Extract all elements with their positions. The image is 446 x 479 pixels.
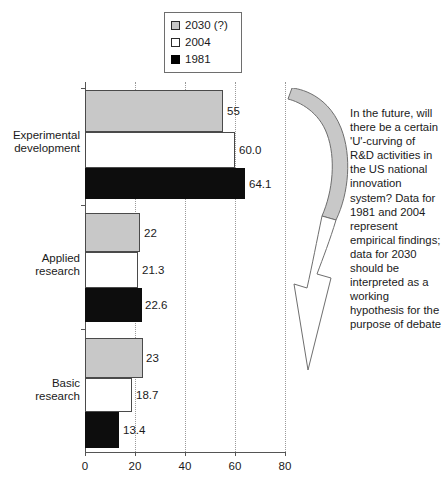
x-tick-label-0: 0 — [65, 460, 105, 472]
category-label-basic-research: Basic research — [2, 377, 80, 403]
bar-value-applied-research-1981: 22.6 — [145, 299, 167, 311]
legend-label-2030: 2030 (?) — [185, 19, 228, 31]
gridline-60 — [235, 82, 236, 452]
y-tick-top — [81, 88, 85, 89]
x-tick-label-40: 40 — [165, 460, 205, 472]
plot-area: 0 20 40 60 80 55 60.0 64.1 22 21.3 22.6 … — [85, 82, 285, 452]
bar-basic-research-1981 — [85, 412, 119, 448]
legend-label-2004: 2004 — [185, 36, 211, 48]
bar-value-basic-research-2030: 23 — [146, 352, 159, 364]
bar-value-applied-research-2030: 22 — [144, 227, 157, 239]
x-tick-60 — [235, 452, 236, 456]
x-tick-label-60: 60 — [215, 460, 255, 472]
bar-value-experimental-development-1981: 64.1 — [249, 178, 271, 190]
category-label-line-1: Experimental — [2, 129, 80, 142]
bar-value-experimental-development-2030: 55 — [227, 105, 240, 117]
bar-value-basic-research-2004: 18.7 — [136, 389, 158, 401]
category-label-line-1: Basic — [2, 377, 80, 390]
bar-applied-research-2004 — [85, 252, 138, 288]
y-tick-group-1 — [81, 205, 85, 206]
x-tick-80 — [285, 452, 286, 456]
bar-value-applied-research-2004: 21.3 — [142, 264, 164, 276]
legend-swatch-2030 — [171, 21, 180, 30]
bar-experimental-development-2004 — [85, 132, 235, 168]
x-tick-20 — [135, 452, 136, 456]
bar-basic-research-2004 — [85, 378, 132, 412]
legend-label-1981: 1981 — [185, 53, 211, 65]
category-label-experimental-development: Experimental development — [2, 129, 80, 155]
x-tick-label-80: 80 — [265, 460, 305, 472]
category-label-line-2: research — [2, 390, 80, 403]
bar-applied-research-1981 — [85, 288, 142, 322]
legend-item-2030: 2030 (?) — [171, 17, 236, 33]
bar-value-basic-research-1981: 13.4 — [123, 424, 145, 436]
bar-experimental-development-1981 — [85, 168, 245, 199]
legend-swatch-1981 — [171, 55, 180, 64]
legend-swatch-2004 — [171, 38, 180, 47]
legend-item-1981: 1981 — [171, 51, 236, 67]
category-label-line-2: development — [2, 142, 80, 155]
x-tick-0 — [85, 452, 86, 456]
legend-item-2004: 2004 — [171, 34, 236, 50]
category-label-line-1: Applied — [2, 252, 80, 265]
x-tick-40 — [185, 452, 186, 456]
category-label-applied-research: Applied research — [2, 252, 80, 278]
category-label-line-2: research — [2, 265, 80, 278]
bar-value-experimental-development-2004: 60.0 — [239, 144, 261, 156]
chart-figure: 2030 (?) 2004 1981 Experimental developm… — [0, 0, 446, 479]
annotation-note: In the future, will there be a certain '… — [350, 106, 442, 332]
bar-basic-research-2030 — [85, 338, 143, 378]
y-tick-group-2 — [81, 329, 85, 330]
bar-applied-research-2030 — [85, 213, 140, 252]
chart-legend: 2030 (?) 2004 1981 — [164, 12, 242, 73]
bar-experimental-development-2030 — [85, 90, 223, 132]
x-tick-label-20: 20 — [115, 460, 155, 472]
